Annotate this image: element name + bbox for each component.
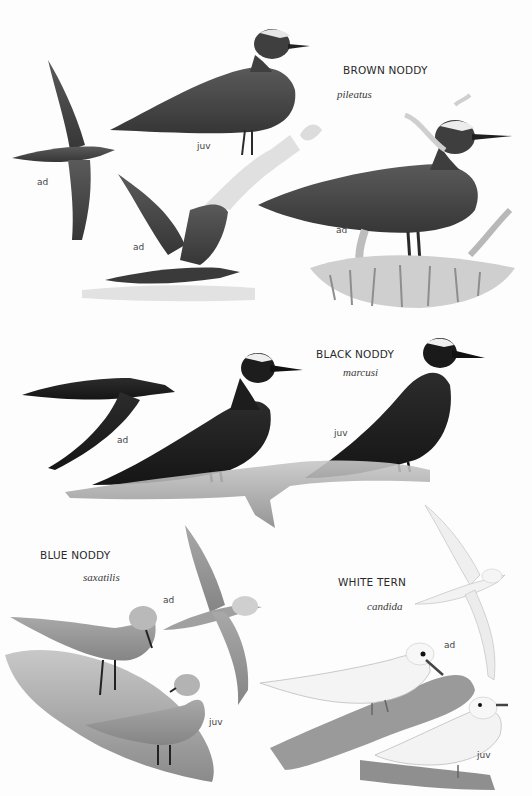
brown-noddy-group <box>12 29 515 308</box>
age-label-juv: juv <box>477 750 491 760</box>
age-label-juv: juv <box>209 717 223 727</box>
black-noddy-group <box>22 338 485 528</box>
illustration-plate: BROWN NODDY pileatus ad juv ad ad BLACK … <box>0 0 532 796</box>
age-label-ad: ad <box>163 595 174 605</box>
species-name-brown-noddy: BROWN NODDY <box>343 64 428 76</box>
species-name-black-noddy: BLACK NODDY <box>316 348 394 360</box>
species-latin-brown-noddy: pileatus <box>337 88 372 100</box>
species-latin-black-noddy: marcusi <box>343 366 378 378</box>
species-name-blue-noddy: BLUE NODDY <box>40 549 110 561</box>
brown-noddy-juvenile <box>110 29 310 155</box>
age-label-ad: ad <box>336 225 347 235</box>
age-label-juv: juv <box>197 141 211 151</box>
brown-noddy-flying-adult <box>12 60 115 240</box>
age-label-juv: juv <box>334 428 348 438</box>
age-label-ad: ad <box>117 435 128 445</box>
species-latin-white-tern: candida <box>367 600 402 612</box>
white-tern-group <box>260 505 508 790</box>
age-label-ad: ad <box>133 242 144 252</box>
age-label-ad: ad <box>37 177 48 187</box>
bird-illustrations <box>0 0 532 796</box>
age-label-ad: ad <box>444 640 455 650</box>
blue-noddy-group <box>5 525 262 782</box>
species-name-white-tern: WHITE TERN <box>338 576 406 588</box>
brown-noddy-perched-adult <box>258 120 512 262</box>
species-latin-blue-noddy: saxatilis <box>83 571 120 583</box>
